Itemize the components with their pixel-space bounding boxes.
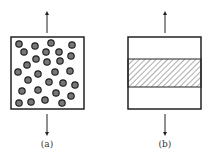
hatched-middle-layer [128, 59, 201, 87]
figure-b [128, 13, 201, 134]
figure-b-label: (b) [145, 139, 185, 149]
figure-a [11, 13, 84, 134]
figure-a-label: (a) [27, 139, 67, 149]
